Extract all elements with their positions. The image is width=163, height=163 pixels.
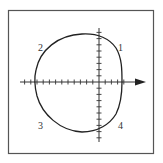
quadrant-label-1: 1 [118,42,123,53]
quadrant-label-3: 3 [38,120,43,131]
quadrant-label-4: 4 [118,120,123,131]
quadrant-label-2: 2 [38,42,43,53]
polar-curve-diagram: 1 2 3 4 [0,0,163,163]
